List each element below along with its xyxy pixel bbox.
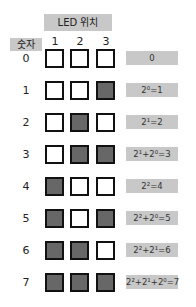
table-row: 62²+2¹=6 — [0, 241, 196, 261]
column-label-2: 2 — [71, 35, 89, 49]
led-off — [70, 177, 89, 196]
result-label: 2²=4 — [126, 179, 178, 193]
led-off — [45, 49, 64, 68]
led-off — [70, 209, 89, 228]
column-label-3: 3 — [97, 35, 115, 49]
row-number: 4 — [20, 177, 32, 197]
led-on — [70, 241, 89, 260]
row-number: 3 — [20, 145, 32, 165]
led-off — [96, 113, 115, 132]
led-on — [96, 145, 115, 164]
table-row: 32¹+2⁰=3 — [0, 145, 196, 165]
led-off — [70, 49, 89, 68]
result-label: 2²+2⁰=5 — [126, 211, 178, 225]
led-off — [45, 145, 64, 164]
result-label: 2¹=2 — [126, 115, 178, 129]
table-row: 12⁰=1 — [0, 81, 196, 101]
led-on — [70, 273, 89, 292]
led-on — [96, 209, 115, 228]
led-off — [96, 241, 115, 260]
table-row: 22¹=2 — [0, 113, 196, 133]
led-on — [45, 241, 64, 260]
led-off — [45, 113, 64, 132]
led-on — [45, 209, 64, 228]
led-on — [45, 273, 64, 292]
table-row: 52²+2⁰=5 — [0, 209, 196, 229]
row-number: 0 — [20, 49, 32, 69]
row-number: 6 — [20, 241, 32, 261]
row-number: 7 — [20, 273, 32, 293]
led-off — [96, 49, 115, 68]
led-on — [96, 81, 115, 100]
led-position-header: LED 위치 — [44, 14, 112, 31]
led-on — [45, 177, 64, 196]
row-number: 5 — [20, 209, 32, 229]
result-label: 0 — [126, 51, 178, 65]
row-number: 1 — [20, 81, 32, 101]
result-label: 2²+2¹+2⁰=7 — [126, 275, 178, 289]
led-off — [45, 81, 64, 100]
led-off — [70, 81, 89, 100]
led-off — [96, 177, 115, 196]
result-label: 2²+2¹=6 — [126, 243, 178, 257]
led-on — [96, 273, 115, 292]
led-on — [70, 145, 89, 164]
table-row: 42²=4 — [0, 177, 196, 197]
result-label: 2¹+2⁰=3 — [126, 147, 178, 161]
led-on — [70, 113, 89, 132]
table-row: 00 — [0, 49, 196, 69]
table-row: 72²+2¹+2⁰=7 — [0, 273, 196, 293]
row-number: 2 — [20, 113, 32, 133]
result-label: 2⁰=1 — [126, 83, 178, 97]
column-label-1: 1 — [46, 35, 64, 49]
